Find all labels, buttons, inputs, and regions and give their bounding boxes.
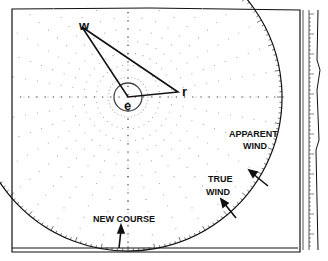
apparent-wind-label-2: WIND [243,141,267,151]
point-r-label: r [182,84,187,99]
distance-scale-strip [303,10,320,250]
new-course-label: NEW COURSE [93,214,155,224]
maneuvering-board: w e r APPARENT WIND TRUE WIND NEW COURSE [0,0,328,261]
true-wind-label-2: WIND [206,187,230,197]
wind-vector-triangle [82,27,178,97]
polar-grid [0,0,269,238]
apparent-wind-label-1: APPARENT [229,129,278,139]
point-w-label: w [78,18,90,33]
point-e-label: e [124,98,131,113]
true-wind-label-1: TRUE [208,174,233,184]
